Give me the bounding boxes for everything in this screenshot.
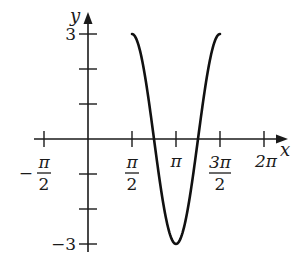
graph-canvas: π2−π2π3π22π 3−3 x y xyxy=(0,0,301,262)
svg-text:π: π xyxy=(37,152,50,172)
svg-text:3π: 3π xyxy=(209,152,232,172)
y-axis-label: y xyxy=(69,5,81,26)
svg-text:2: 2 xyxy=(39,174,50,194)
axes xyxy=(34,18,280,252)
x-tick-label: π2− xyxy=(19,152,51,194)
svg-text:2π: 2π xyxy=(254,151,278,171)
svg-text:π: π xyxy=(125,152,138,172)
x-tick-label: 2π xyxy=(254,151,278,171)
x-tick-labels: π2−π2π3π22π xyxy=(19,151,278,194)
y-axis-arrow-icon xyxy=(84,12,93,24)
x-axis-label: x xyxy=(280,139,290,160)
y-tick-label: −3 xyxy=(51,234,76,254)
svg-text:2: 2 xyxy=(127,174,138,194)
x-tick-label: π2 xyxy=(125,152,139,194)
svg-text:−: − xyxy=(19,163,33,183)
y-tick-label: 3 xyxy=(65,24,76,44)
svg-text:π: π xyxy=(169,151,182,171)
x-tick-label: π xyxy=(169,151,182,171)
x-tick-label: 3π2 xyxy=(209,152,232,194)
svg-text:2: 2 xyxy=(215,174,226,194)
